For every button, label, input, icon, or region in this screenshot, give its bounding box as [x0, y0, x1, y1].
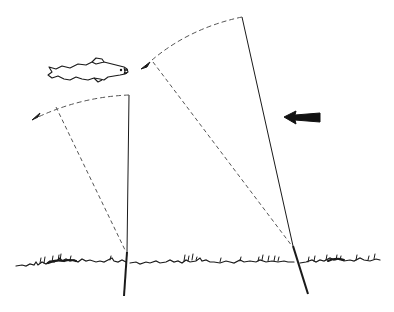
arc-arrowhead-right-icon: [141, 62, 150, 69]
arrow-left-icon: [284, 111, 320, 124]
fish-icon: [48, 58, 128, 82]
rod-right-tip-arc: [152, 17, 242, 60]
rod-right: [141, 17, 308, 294]
rod-right-shaft-above: [242, 17, 293, 246]
diagram-svg: [0, 0, 394, 312]
grass-ground-line: [16, 254, 380, 266]
casting-diagram: [0, 0, 394, 312]
rod-right-flex-line: [153, 62, 292, 246]
rod-left-shaft-above: [127, 95, 129, 252]
rod-right-shaft-below: [293, 246, 308, 294]
rod-left-tip-arc: [36, 95, 129, 118]
rod-left: [32, 95, 129, 296]
arc-arrowhead-left-icon: [32, 113, 40, 120]
rod-left-shaft-below: [124, 252, 127, 296]
rod-left-flex-line: [56, 107, 126, 252]
